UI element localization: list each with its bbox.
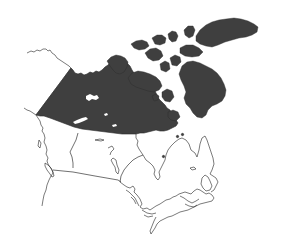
hudson-bay-coast <box>136 134 214 180</box>
devon-island <box>180 45 203 57</box>
bc-coast <box>24 108 53 206</box>
alaska-north-coast <box>27 49 71 68</box>
islet-1 <box>176 135 179 138</box>
bc-alberta-border <box>70 133 78 168</box>
great-lakes <box>126 190 156 217</box>
anticosti <box>190 167 196 170</box>
melville-island <box>152 35 166 45</box>
bathurst-island <box>168 31 178 42</box>
vancouver-island <box>45 163 54 177</box>
lake-winnipeg <box>111 158 119 174</box>
boothia-peninsula <box>162 89 174 102</box>
us-border-49th <box>53 170 121 182</box>
maritimes <box>180 196 199 207</box>
prince-of-wales-island <box>160 61 170 72</box>
haida-gwaii <box>38 140 41 148</box>
baffin-island <box>179 61 226 118</box>
belcher-islet <box>162 155 165 158</box>
canada-map <box>0 0 283 250</box>
ellesmere-island <box>196 18 258 47</box>
somerset-island <box>170 55 181 66</box>
islet-2 <box>181 133 184 136</box>
labrador-coast <box>210 174 218 192</box>
newfoundland <box>201 175 212 191</box>
saskatchewan-lakes <box>95 139 114 155</box>
manitoba-ontario-border <box>120 155 143 182</box>
southern-coast <box>120 182 214 234</box>
axel-heiberg-island <box>184 26 195 38</box>
queen-elizabeth-islands-c <box>145 48 163 61</box>
queen-elizabeth-islands-w <box>131 40 149 50</box>
